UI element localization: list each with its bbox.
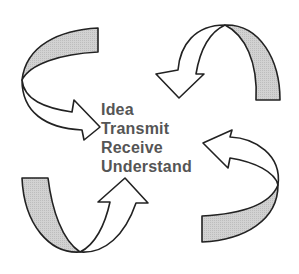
top-left-curved-arrow-icon — [22, 28, 100, 140]
cycle-step-labels: Idea Transmit Receive Understand — [101, 100, 192, 176]
top-right-curved-arrow-icon — [156, 25, 280, 100]
step-label-understand: Understand — [101, 157, 192, 176]
communication-cycle-diagram: Idea Transmit Receive Understand — [0, 0, 299, 274]
step-label-transmit: Transmit — [101, 119, 192, 138]
step-label-receive: Receive — [101, 138, 192, 157]
bottom-right-curved-arrow-icon — [202, 130, 278, 242]
bottom-left-curved-arrow-icon — [22, 178, 148, 252]
step-label-idea: Idea — [101, 100, 192, 119]
